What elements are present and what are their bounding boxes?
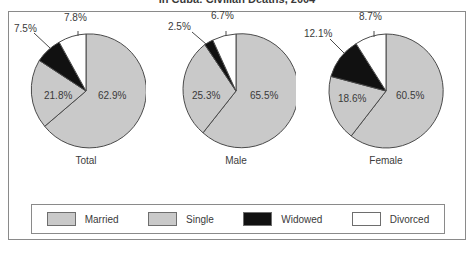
legend-label-married: Married [85, 214, 119, 225]
slice-value-male-widowed: 2.5% [168, 21, 191, 32]
slice-value-female-widowed: 12.1% [304, 28, 332, 39]
pie-group-label-male: Male [176, 155, 296, 166]
pie-group-label-total: Total [26, 155, 146, 166]
chart-title-text: in Cuba: Civilian Deaths, 2004 [0, 0, 474, 5]
slice-value-total-widowed: 7.5% [14, 23, 37, 34]
slice-value-total-divorced: 7.8% [64, 12, 87, 23]
legend-item-single: Single [148, 212, 214, 226]
pie-svg-female [326, 31, 446, 151]
pie-chart-total: Total 62.9% 21.8% 7.5% 7.8% [26, 31, 146, 171]
pie-chart-female: Female 60.5% 18.6% 12.1% 8.7% [326, 31, 446, 171]
legend-label-widowed: Widowed [281, 214, 322, 225]
leader-line-total-widowed [34, 33, 50, 48]
legend-label-divorced: Divorced [390, 214, 429, 225]
slice-value-male-married: 65.5% [250, 90, 278, 101]
slice-value-male-divorced: 6.7% [211, 10, 234, 21]
chart-figure-frame: Total 62.9% 21.8% 7.5% 7.8% Male 65.5% [8, 11, 466, 240]
pie-chart-group: Total 62.9% 21.8% 7.5% 7.8% Male 65.5% [9, 12, 465, 190]
chart-legend: Married Single Widowed Divorced [31, 204, 445, 234]
chart-title-clipped: in Cuba: Civilian Deaths, 2004 [0, 0, 474, 9]
legend-swatch-widowed-icon [243, 212, 272, 226]
legend-item-widowed: Widowed [243, 212, 322, 226]
legend-item-divorced: Divorced [352, 212, 429, 226]
slice-value-female-married: 60.5% [396, 90, 424, 101]
legend-swatch-divorced-icon [352, 212, 381, 226]
slice-value-male-single: 25.3% [192, 90, 220, 101]
slice-value-female-divorced: 8.7% [359, 11, 382, 22]
slice-value-female-single: 18.6% [338, 93, 366, 104]
legend-swatch-married-icon [47, 212, 76, 226]
leader-line-male-widowed [192, 32, 206, 44]
slice-value-total-single: 21.8% [44, 90, 72, 101]
leader-line-female-widowed [330, 39, 344, 53]
slice-value-total-married: 62.9% [98, 90, 126, 101]
legend-label-single: Single [186, 214, 214, 225]
pie-chart-male: Male 65.5% 25.3% 2.5% 6.7% [176, 31, 296, 171]
pie-group-label-female: Female [326, 155, 446, 166]
legend-swatch-single-icon [148, 212, 177, 226]
legend-item-married: Married [47, 212, 119, 226]
